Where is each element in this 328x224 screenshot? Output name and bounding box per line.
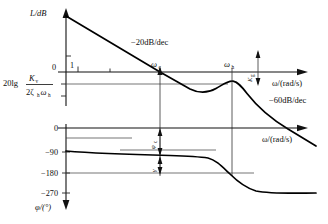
gain-expression-numerator-sub: v	[36, 78, 39, 84]
magnitude-x-axis-label: ω/(rad/s)	[272, 78, 302, 88]
phase-margin-gamma-glyph: γ	[150, 169, 157, 172]
magnitude-x-axis	[58, 69, 308, 76]
gain-margin-subscript: g	[249, 74, 255, 77]
crossover-omega-glyph: ω	[151, 59, 157, 69]
phase-x-axis	[58, 125, 308, 132]
phase-at-crossover-label: φ c	[149, 140, 158, 149]
gain-expression-denominator-lead: 2ζ	[26, 87, 34, 97]
magnitude-decade-one-label: 1	[70, 61, 74, 70]
slope-high-label: −60dB/dec	[269, 95, 307, 105]
crossover-omega-subscript: c	[159, 64, 162, 70]
phase-y-axis	[63, 124, 70, 210]
phase-y-axis-label-text: φ/(°)	[35, 202, 51, 212]
phase-at-crossover-arrow	[158, 128, 163, 156]
magnitude-x-ticks	[61, 56, 110, 96]
magnitude-y-axis	[63, 8, 70, 106]
phase-tick-label-180: −180	[41, 169, 58, 178]
phase-x-axis-label: ω/(rad/s)	[262, 134, 292, 144]
phase-tick-label-90: −90	[45, 148, 58, 157]
gain-expression-denominator-sub2: h	[48, 92, 51, 98]
resonance-frequency-label: ω h	[224, 59, 235, 70]
phase-at-crossover-phi-glyph: φ	[149, 145, 156, 149]
gain-expression-prefix: 20lg	[3, 78, 19, 88]
bode-plot-figure: L/dB 0 1 20lg K v 2ζ h ω h −20dB/dec −60…	[0, 0, 328, 224]
phase-tick-label-0: 0	[54, 124, 58, 133]
phase-y-axis-label: φ/(°)	[35, 202, 51, 212]
resonance-omega-subscript: h	[232, 64, 235, 70]
slope-low-label: −20dB/dec	[131, 37, 169, 47]
phase-margin-label: γ	[150, 169, 157, 172]
phase-margin-arrow	[158, 156, 163, 175]
magnitude-zero-label: 0	[52, 63, 56, 72]
crossover-frequency-label: ω c	[151, 59, 162, 70]
gain-expression: 20lg K v 2ζ h ω h	[3, 73, 53, 98]
gain-margin-label: K g	[246, 74, 255, 83]
phase-at-crossover-subscript: c	[152, 140, 158, 143]
phase-curve	[66, 151, 316, 193]
phase-tick-label-270: −270	[41, 189, 58, 198]
magnitude-y-axis-label: L/dB	[29, 8, 47, 18]
gain-expression-denominator-omega: ω	[41, 87, 47, 97]
gain-margin-arrow	[256, 50, 261, 86]
resonance-omega-glyph: ω	[224, 59, 230, 69]
